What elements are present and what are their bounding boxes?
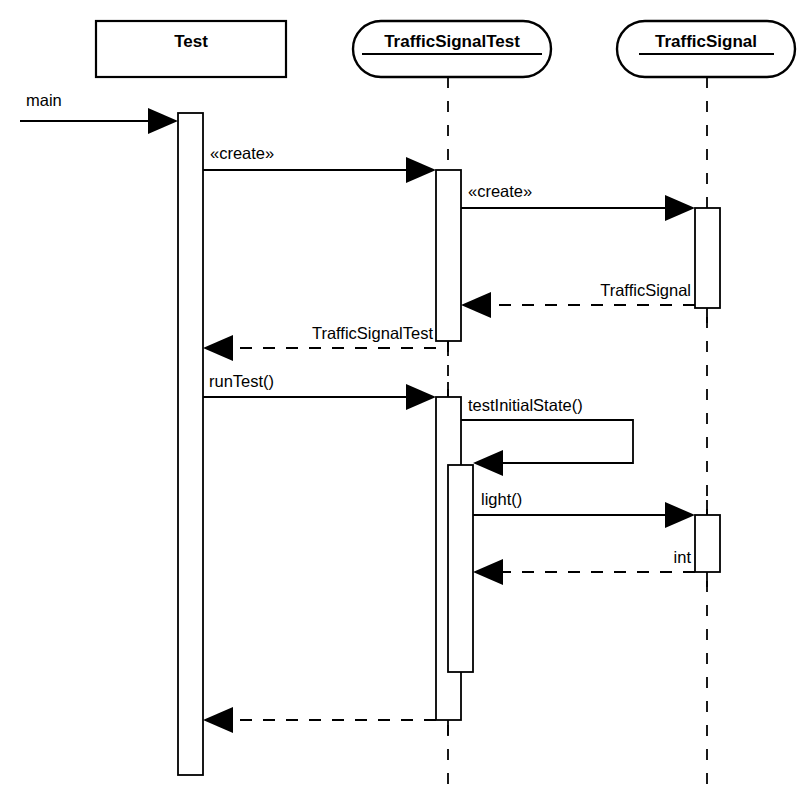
- message-runtest[interactable]: runTest(): [203, 372, 436, 410]
- message-return-final[interactable]: [203, 707, 436, 733]
- arrowhead-runtest: [406, 384, 436, 410]
- arrowhead-light: [665, 502, 695, 528]
- sequence-diagram-svg: Test TrafficSignalTest TrafficSignal: [0, 0, 809, 796]
- message-label-return-int: int: [674, 548, 692, 566]
- arrowhead-testinitialstate: [473, 450, 503, 476]
- participant-label-trafficsignaltest: TrafficSignalTest: [384, 32, 520, 51]
- arrowhead-create-2: [665, 195, 695, 221]
- arrowhead-return-int: [473, 559, 503, 585]
- participant-head-trafficsignal[interactable]: TrafficSignal: [617, 21, 795, 77]
- arrowhead-return-final: [203, 707, 233, 733]
- message-label-return-trafficsignal: TrafficSignal: [600, 281, 691, 299]
- message-return-trafficsignaltest[interactable]: TrafficSignalTest: [203, 324, 436, 361]
- arrowhead-create-1: [406, 157, 436, 183]
- activation-bar-trafficsignal-2[interactable]: [695, 515, 720, 572]
- activation-bar-trafficsignal-1[interactable]: [695, 208, 720, 308]
- message-label-runtest: runTest(): [209, 372, 274, 390]
- message-label-testinitialstate: testInitialState(): [468, 396, 583, 414]
- message-path-testinitialstate: [461, 420, 633, 463]
- message-create-trafficsignaltest[interactable]: «create»: [203, 144, 436, 183]
- message-label-create-2: «create»: [468, 182, 532, 200]
- message-return-trafficsignal[interactable]: TrafficSignal: [461, 281, 695, 318]
- message-light[interactable]: light(): [473, 490, 695, 528]
- arrowhead-return-trafficsignaltest: [203, 335, 233, 361]
- activation-bar-trafficsignaltest-2-nested[interactable]: [448, 465, 473, 672]
- message-label-create-1: «create»: [210, 144, 274, 162]
- arrowhead-main: [148, 108, 178, 134]
- participant-label-trafficsignal: TrafficSignal: [655, 32, 757, 51]
- participant-label-test: Test: [174, 32, 208, 51]
- message-label-return-trafficsignaltest: TrafficSignalTest: [312, 324, 433, 342]
- arrowhead-return-trafficsignal: [461, 292, 491, 318]
- participant-head-trafficsignaltest[interactable]: TrafficSignalTest: [353, 21, 551, 77]
- message-return-int[interactable]: int: [473, 548, 695, 585]
- activation-bar-test[interactable]: [178, 113, 203, 775]
- message-main[interactable]: main: [20, 91, 178, 134]
- message-label-main: main: [26, 91, 62, 109]
- message-testinitialstate-self[interactable]: testInitialState(): [461, 396, 633, 476]
- sequence-diagram-canvas: Test TrafficSignalTest TrafficSignal: [0, 0, 809, 796]
- message-create-trafficsignal[interactable]: «create»: [461, 182, 695, 221]
- activations-group: [178, 113, 720, 775]
- participant-head-test[interactable]: Test: [96, 21, 286, 77]
- message-label-light: light(): [481, 490, 522, 508]
- activation-bar-trafficsignaltest-1[interactable]: [436, 170, 461, 341]
